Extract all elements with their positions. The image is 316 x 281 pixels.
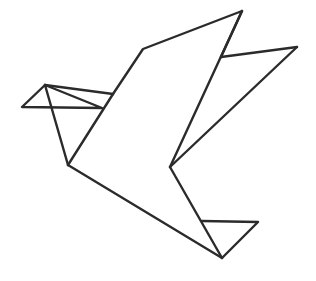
artboard: Minimal black line drawing of a folded p… — [0, 0, 316, 281]
origami-bird-illustration — [0, 0, 316, 281]
